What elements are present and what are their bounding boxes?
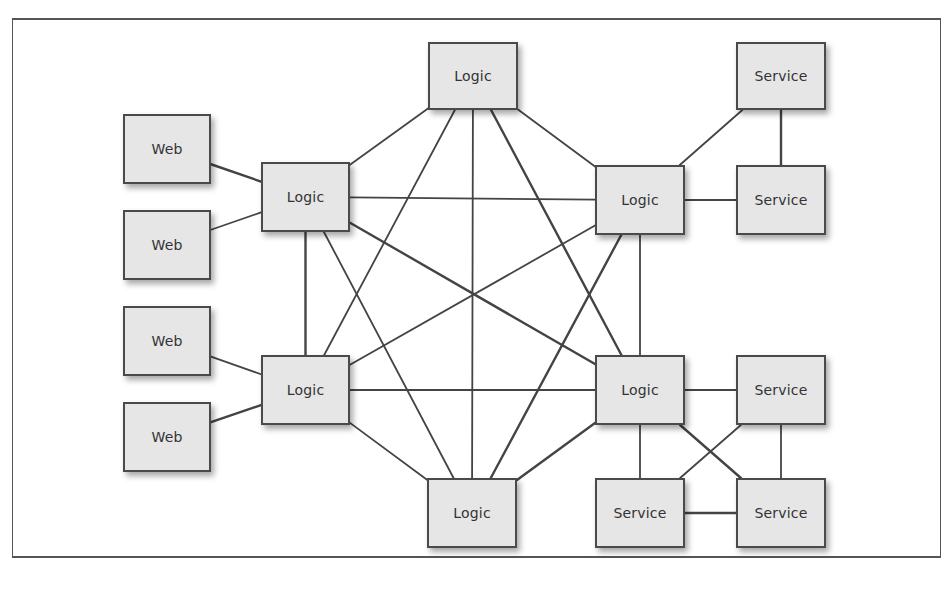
node-label: Service — [754, 68, 807, 84]
edge-logic-left-1-to-logic-top — [350, 109, 428, 165]
node-label: Service — [613, 505, 666, 521]
edge-logic-top-to-logic-left-2 — [324, 110, 455, 355]
node-label: Service — [754, 382, 807, 398]
edge-web-1-to-logic-left-1 — [211, 164, 261, 181]
edge-logic-bottom-to-logic-right-2 — [517, 423, 595, 480]
node-logic-left-1[interactable]: Logic — [261, 162, 350, 232]
node-label: Logic — [453, 505, 491, 521]
node-web-4[interactable]: Web — [123, 402, 211, 472]
edge-web-3-to-logic-left-2 — [211, 357, 261, 375]
node-label: Web — [151, 429, 182, 445]
node-web-3[interactable]: Web — [123, 306, 211, 376]
edge-web-2-to-logic-left-1 — [211, 212, 261, 229]
edge-logic-left-2-to-logic-bottom — [350, 423, 427, 480]
node-service-3[interactable]: Service — [736, 355, 826, 425]
node-label: Web — [151, 141, 182, 157]
node-label: Logic — [287, 189, 325, 205]
edge-logic-top-to-logic-right-1 — [518, 109, 595, 166]
node-label: Logic — [454, 68, 492, 84]
node-web-1[interactable]: Web — [123, 114, 211, 184]
node-web-2[interactable]: Web — [123, 210, 211, 280]
node-logic-left-2[interactable]: Logic — [261, 355, 350, 425]
edge-logic-right-1-to-service-1 — [680, 110, 743, 165]
node-logic-bottom[interactable]: Logic — [427, 478, 517, 548]
node-service-4[interactable]: Service — [595, 478, 685, 548]
node-label: Logic — [287, 382, 325, 398]
node-label: Service — [754, 505, 807, 521]
edge-logic-top-to-logic-bottom — [472, 110, 473, 478]
node-label: Logic — [621, 192, 659, 208]
node-label: Logic — [621, 382, 659, 398]
node-label: Web — [151, 237, 182, 253]
edge-web-4-to-logic-left-2 — [211, 405, 261, 422]
node-logic-right-1[interactable]: Logic — [595, 165, 685, 235]
node-label: Web — [151, 333, 182, 349]
node-logic-top[interactable]: Logic — [428, 42, 518, 110]
node-service-1[interactable]: Service — [736, 42, 826, 110]
node-service-5[interactable]: Service — [736, 478, 826, 548]
node-logic-right-2[interactable]: Logic — [595, 355, 685, 425]
node-service-2[interactable]: Service — [736, 165, 826, 235]
node-label: Service — [754, 192, 807, 208]
